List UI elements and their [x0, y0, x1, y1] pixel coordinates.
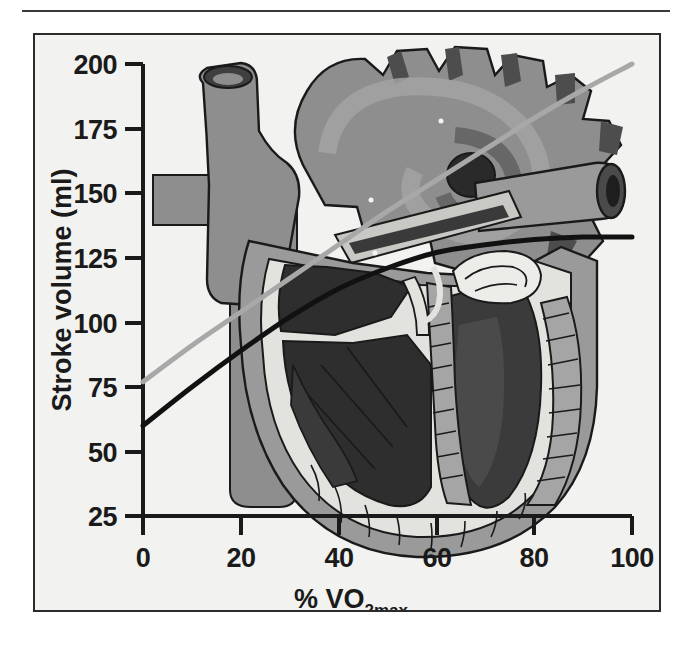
y-tick-label-50: 50: [88, 438, 117, 468]
figure-panel: 200 175 150 125 100 75 50 25 0 20 40 60 …: [33, 33, 661, 612]
y-tick-label-100: 100: [73, 309, 117, 339]
highlight-dot-3: [373, 251, 378, 256]
x-tick-label-0: 0: [136, 543, 151, 573]
highlight-dot-2: [369, 198, 374, 203]
x-tick-label-40: 40: [324, 543, 353, 573]
y-tick-label-150: 150: [73, 179, 117, 209]
arch-notch-5: [599, 121, 623, 155]
x-axis-title: % VO2max: [294, 584, 409, 610]
aorta-tube-opening-lumen: [606, 175, 620, 207]
x-tick-label-20: 20: [226, 543, 255, 573]
chart-canvas: 200 175 150 125 100 75 50 25 0 20 40 60 …: [35, 35, 659, 610]
x-tick-label-60: 60: [422, 543, 451, 573]
top-horizontal-rule: [22, 10, 670, 12]
y-axis-ticks: [125, 64, 143, 516]
y-tick-label-175: 175: [73, 115, 117, 145]
x-tick-label-100: 100: [610, 543, 654, 573]
x-tick-label-80: 80: [519, 543, 548, 573]
y-tick-label-25: 25: [88, 502, 118, 532]
y-axis-title: Stroke volume (ml): [47, 168, 77, 411]
figure-root: 200 175 150 125 100 75 50 25 0 20 40 60 …: [0, 0, 691, 649]
x-axis-title-subscript: 2max: [365, 601, 409, 610]
y-tick-label-125: 125: [73, 244, 117, 274]
vessel-stub-left: [153, 175, 210, 225]
x-axis-title-main: % VO: [294, 584, 365, 610]
heart-illustration: [153, 47, 625, 557]
highlight-dot-1: [439, 119, 444, 124]
svc-lumen-inner: [213, 73, 243, 85]
y-tick-label-75: 75: [88, 373, 118, 403]
y-tick-label-200: 200: [73, 50, 117, 80]
